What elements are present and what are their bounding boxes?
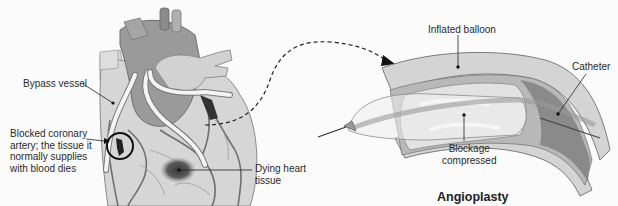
figure-title-angioplasty: Angioplasty — [437, 190, 509, 204]
label-catheter: Catheter — [572, 61, 610, 73]
label-blocked-coronary-artery: Blocked coronary artery; the tissue it n… — [10, 128, 92, 174]
label-blockage-compressed: Blockage compressed — [442, 143, 496, 166]
label-bypass-vessel: Bypass vessel — [23, 78, 87, 90]
illustration — [0, 0, 618, 206]
label-inflated-balloon: Inflated balloon — [428, 24, 496, 36]
heart-illustration — [100, 8, 257, 206]
label-dying-heart-tissue: Dying heart tissue — [255, 163, 306, 186]
diagram-canvas: Bypass vessel Blocked coronary artery; t… — [0, 0, 618, 206]
